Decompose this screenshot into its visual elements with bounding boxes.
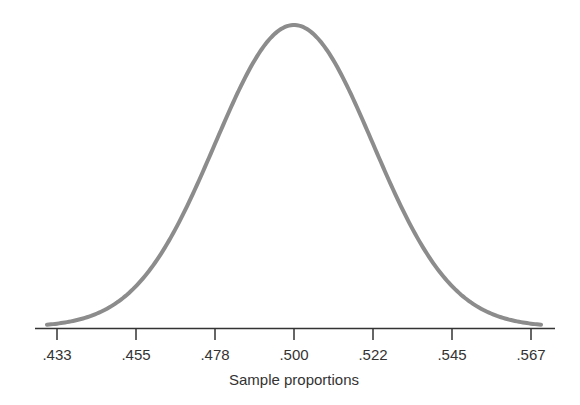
x-tick-label: .522 — [358, 346, 387, 363]
normal-curve-chart: .433.455.478.500.522.545.567 Sample prop… — [0, 0, 580, 405]
x-tick-label: .545 — [437, 346, 466, 363]
normal-distribution-curve — [47, 25, 541, 325]
x-tick-label: .567 — [516, 346, 545, 363]
x-tick-label: .500 — [279, 346, 308, 363]
x-axis-ticks: .433.455.478.500.522.545.567 — [42, 329, 545, 363]
x-tick-label: .478 — [200, 346, 229, 363]
x-axis-title: Sample proportions — [229, 371, 359, 388]
x-tick-label: .433 — [42, 346, 71, 363]
x-tick-label: .455 — [121, 346, 150, 363]
